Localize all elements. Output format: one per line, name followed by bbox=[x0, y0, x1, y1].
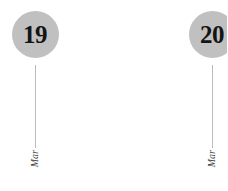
day-number: 20 bbox=[200, 22, 224, 48]
month-label: Mar bbox=[207, 150, 217, 167]
month-label: Mar bbox=[30, 150, 40, 167]
marker-stem-line bbox=[35, 65, 36, 148]
marker-stem-line bbox=[212, 65, 213, 148]
day-number: 19 bbox=[23, 22, 47, 48]
day-bubble[interactable]: 19 bbox=[12, 11, 59, 58]
day-bubble[interactable]: 20 bbox=[189, 11, 228, 58]
timeline-canvas: 19 Mar 20 Mar bbox=[0, 0, 227, 191]
